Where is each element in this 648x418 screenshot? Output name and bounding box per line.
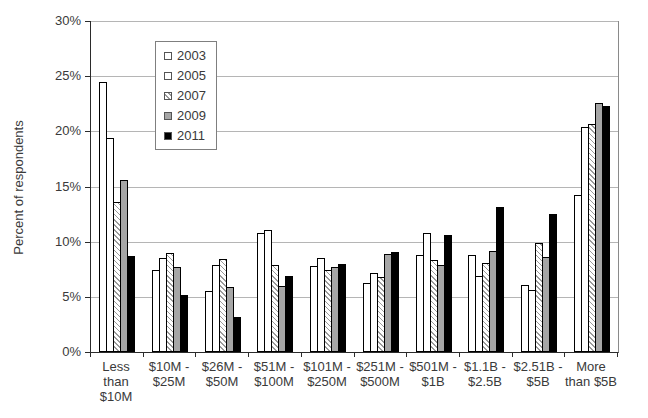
bar-2011: [602, 106, 610, 352]
y-axis-tick-label: 15%: [39, 180, 81, 194]
bar-2011: [127, 256, 135, 352]
bar-group: [302, 21, 355, 352]
x-axis-tick: [617, 353, 618, 357]
x-axis-tick: [406, 353, 407, 357]
bar-group: [355, 21, 408, 352]
y-axis-tick: [85, 297, 90, 298]
y-axis-tick: [85, 131, 90, 132]
legend: 20032005200720092011: [155, 41, 217, 150]
legend-label-2003: 2003: [177, 48, 206, 63]
legend-entry-2009: 2009: [164, 108, 206, 123]
bar-2011: [338, 264, 346, 352]
bar-2011: [496, 207, 504, 352]
y-axis-tick: [85, 21, 90, 22]
x-axis-tick: [143, 353, 144, 357]
x-axis-tick: [564, 353, 565, 357]
bar-2011: [391, 252, 399, 352]
y-axis-tick-label: 5%: [39, 290, 81, 304]
bar-group: [565, 21, 618, 352]
bar-group: [513, 21, 566, 352]
legend-marker-2003: [164, 52, 172, 60]
legend-label-2007: 2007: [177, 88, 206, 103]
y-axis-tick-label: 25%: [39, 69, 81, 83]
y-axis-tick: [85, 76, 90, 77]
x-axis-category-label: More than $5B: [555, 359, 627, 389]
bar-2011: [285, 276, 293, 352]
bar-2011: [233, 317, 241, 352]
x-axis-tick: [248, 353, 249, 357]
bar-2011: [444, 235, 452, 352]
bar-group: [249, 21, 302, 352]
legend-label-2005: 2005: [177, 68, 206, 83]
legend-entry-2003: 2003: [164, 48, 206, 63]
legend-entry-2011: 2011: [164, 128, 206, 143]
legend-entry-2005: 2005: [164, 68, 206, 83]
x-axis-tick: [195, 353, 196, 357]
y-axis-tick: [85, 242, 90, 243]
bar-group: [407, 21, 460, 352]
x-axis-tick: [512, 353, 513, 357]
y-axis-tick-label: 10%: [39, 235, 81, 249]
legend-entry-2007: 2007: [164, 88, 206, 103]
x-axis-tick: [354, 353, 355, 357]
y-axis-tick-label: 20%: [39, 124, 81, 138]
y-axis-tick: [85, 187, 90, 188]
legend-marker-2009: [164, 112, 172, 120]
legend-marker-2011: [164, 132, 172, 140]
legend-label-2011: 2011: [177, 128, 205, 143]
x-axis-tick: [90, 353, 91, 357]
legend-marker-2005: [164, 72, 172, 80]
legend-label-2009: 2009: [177, 108, 206, 123]
chart-root: Percent of respondents 20032005200720092…: [0, 0, 648, 418]
y-axis-tick-label: 0%: [39, 345, 81, 359]
x-axis-tick: [459, 353, 460, 357]
bar-group: [460, 21, 513, 352]
y-axis-tick-label: 30%: [39, 14, 81, 28]
bar-2011: [180, 295, 188, 352]
y-axis-title: Percent of respondents: [11, 108, 26, 268]
bar-2011: [549, 214, 557, 352]
bar-group: [91, 21, 144, 352]
legend-marker-2007: [164, 92, 172, 100]
x-axis-tick: [301, 353, 302, 357]
